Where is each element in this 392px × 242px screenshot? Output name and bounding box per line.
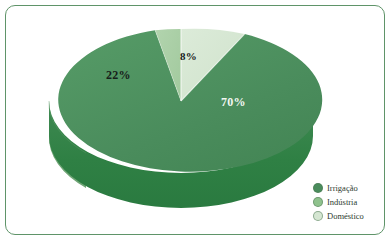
legend-swatch-icon-industria — [313, 197, 323, 207]
legend-swatch-icon-irrigacao — [313, 183, 323, 193]
legend-item-industria[interactable]: Indústria — [313, 196, 364, 208]
legend-item-domestico[interactable]: Doméstico — [313, 210, 364, 222]
chart-frame: 8% 22% 70% Irrigação Indústria Doméstico — [5, 5, 385, 235]
legend-label-industria: Indústria — [327, 198, 357, 207]
legend-item-irrigacao[interactable]: Irrigação — [313, 182, 364, 194]
legend-label-domestico: Doméstico — [327, 212, 364, 221]
chart-legend: Irrigação Indústria Doméstico — [313, 182, 364, 222]
legend-label-irrigacao: Irrigação — [327, 184, 358, 193]
legend-swatch-icon-domestico — [313, 211, 323, 221]
